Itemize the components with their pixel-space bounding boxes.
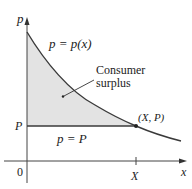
- region-label-line2: surplus: [96, 76, 131, 90]
- y-axis-arrow-icon: [25, 17, 30, 25]
- origin-label: 0: [17, 165, 23, 179]
- region-label-line1: Consumer: [96, 63, 145, 77]
- x-tick-label: X: [130, 169, 139, 183]
- x-axis-arrow-icon: [179, 159, 187, 164]
- curve-label: p = p(x): [48, 36, 92, 51]
- x-axis-label: x: [180, 165, 187, 179]
- y-axis-label: p: [16, 11, 24, 26]
- equilibrium-point: [134, 124, 138, 128]
- consumer-surplus-diagram: p x 0 X P p = p(x) p = P (X, P) Consumer…: [0, 0, 192, 189]
- y-tick-label: P: [14, 119, 23, 133]
- point-label: (X, P): [138, 111, 165, 124]
- price-line-label: p = P: [56, 131, 87, 146]
- leader-dot: [62, 95, 64, 97]
